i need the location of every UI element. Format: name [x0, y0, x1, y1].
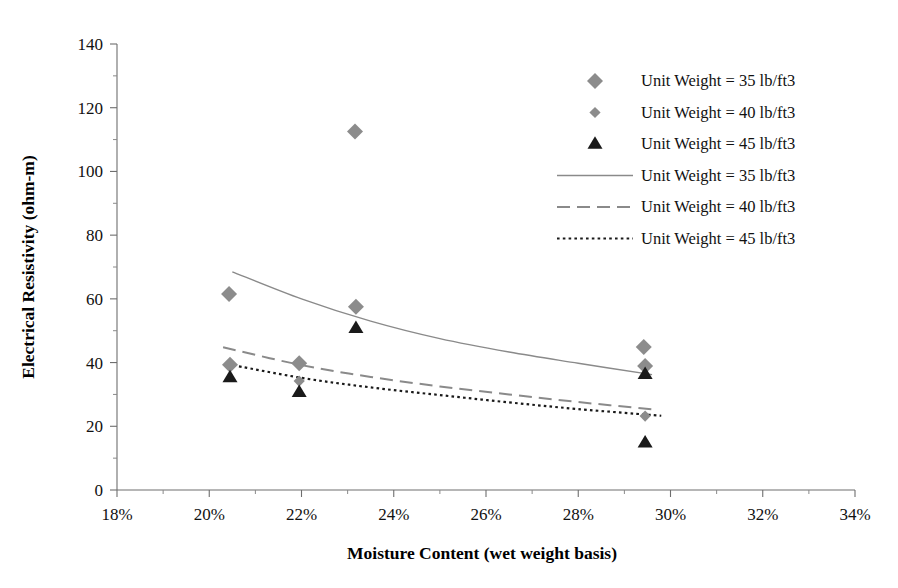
x-axis-tick-label: 20%: [194, 505, 225, 524]
legend-item: Unit Weight = 45 lb/ft3: [557, 229, 795, 248]
data-marker-diamond: [587, 73, 603, 89]
x-axis-title: Moisture Content (wet weight basis): [347, 543, 617, 563]
y-axis: 020406080100120140: [78, 35, 118, 500]
data-marker-triangle: [588, 136, 603, 149]
y-axis-tick-label: 0: [95, 481, 104, 500]
data-marker-diamond: [589, 107, 600, 118]
y-axis-tick-label: 100: [78, 162, 104, 181]
y-axis-tick-label: 40: [86, 354, 103, 373]
legend-item-label: Unit Weight = 35 lb/ft3: [641, 166, 795, 185]
data-marker-triangle: [292, 384, 307, 397]
chart-figure: 020406080100120140 18%20%22%24%26%28%30%…: [0, 0, 898, 588]
legend-item-label: Unit Weight = 40 lb/ft3: [641, 103, 795, 122]
legend-item-label: Unit Weight = 35 lb/ft3: [641, 71, 795, 90]
data-marker-triangle: [348, 320, 363, 333]
y-axis-tick-label: 80: [86, 226, 103, 245]
chart-legend: Unit Weight = 35 lb/ft3Unit Weight = 40 …: [557, 71, 795, 248]
trend-line-dashed: [223, 347, 657, 409]
y-axis-tick-label: 120: [78, 99, 104, 118]
data-marker-diamond: [291, 355, 307, 371]
x-axis-tick-label: 34%: [839, 505, 870, 524]
y-axis-tick-label: 140: [78, 35, 104, 54]
x-axis-tick-label: 28%: [563, 505, 594, 524]
y-axis-tick-label: 60: [86, 290, 103, 309]
legend-item: Unit Weight = 40 lb/ft3: [557, 197, 795, 216]
data-marker-diamond: [636, 339, 652, 355]
y-axis-title: Electrical Resistivity (ohm-m): [18, 155, 38, 379]
x-axis-tick-label: 30%: [655, 505, 686, 524]
electrical-resistivity-scatter-chart: 020406080100120140 18%20%22%24%26%28%30%…: [0, 0, 898, 588]
x-axis-tick-label: 24%: [378, 505, 409, 524]
data-marker-triangle: [223, 370, 238, 383]
legend-item: Unit Weight = 40 lb/ft3: [589, 103, 795, 122]
x-axis-tick-label: 18%: [101, 505, 132, 524]
trend-line-dotted: [228, 364, 662, 416]
data-marker-diamond: [221, 286, 237, 302]
x-axis-tick-label: 26%: [470, 505, 501, 524]
legend-item: Unit Weight = 45 lb/ft3: [588, 134, 796, 153]
legend-item-label: Unit Weight = 45 lb/ft3: [641, 229, 795, 248]
plot-series-group: [221, 124, 661, 448]
data-marker-diamond: [640, 410, 651, 421]
x-axis-tick-label: 32%: [747, 505, 778, 524]
legend-item: Unit Weight = 35 lb/ft3: [587, 71, 795, 90]
x-axis-tick-label: 22%: [286, 505, 317, 524]
y-axis-tick-label: 20: [86, 417, 103, 436]
legend-item-label: Unit Weight = 40 lb/ft3: [641, 197, 795, 216]
x-axis: 18%20%22%24%26%28%30%32%34%: [101, 490, 870, 524]
data-marker-triangle: [638, 435, 653, 448]
legend-item: Unit Weight = 35 lb/ft3: [557, 166, 795, 185]
legend-item-label: Unit Weight = 45 lb/ft3: [641, 134, 795, 153]
data-marker-diamond: [347, 124, 363, 140]
data-marker-diamond: [348, 299, 364, 315]
